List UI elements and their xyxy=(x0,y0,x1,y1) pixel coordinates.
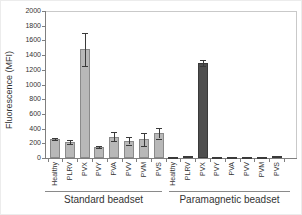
x-label-PLRV: PLRV xyxy=(66,162,74,180)
x-tick xyxy=(48,159,49,162)
y-tick-label-1600: 1600 xyxy=(9,36,41,44)
x-label-PVX: PVX xyxy=(199,162,207,176)
error-bar-line-PVM xyxy=(144,133,145,146)
x-label-PVV: PVV xyxy=(243,162,251,176)
y-tick xyxy=(42,129,45,130)
x-tick xyxy=(122,159,123,162)
y-tick xyxy=(42,85,45,86)
y-tick-label-2000: 2000 xyxy=(9,7,41,15)
error-bar-cap-top-PVX xyxy=(200,60,206,61)
x-tick xyxy=(136,159,137,162)
x-label-PVS: PVS xyxy=(273,162,281,176)
y-tick xyxy=(42,40,45,41)
y-tick xyxy=(42,70,45,71)
error-bar-cap-bottom-Healthy xyxy=(52,140,58,141)
x-label-PVA: PVA xyxy=(228,162,236,176)
x-tick xyxy=(62,159,63,162)
error-bar-cap-bottom-PVX xyxy=(82,66,88,67)
error-bar-cap-bottom-PVA xyxy=(111,141,117,142)
x-label-PVY: PVY xyxy=(95,162,103,176)
x-tick xyxy=(225,159,226,162)
plot-border-top xyxy=(45,11,297,12)
plot-border-right xyxy=(296,11,297,158)
error-bar-line-PVX xyxy=(85,33,86,66)
error-bar-cap-top-PVA xyxy=(111,132,117,133)
y-tick xyxy=(42,26,45,27)
x-tick xyxy=(210,159,211,162)
x-label-Healthy: Healthy xyxy=(51,162,59,186)
bar-paramagnetic-Healthy xyxy=(168,157,178,159)
bar-standard-Healthy xyxy=(50,139,60,158)
y-tick-label-1200: 1200 xyxy=(9,66,41,74)
x-tick xyxy=(151,159,152,162)
group-label-paramagnetic: Paramagnetic beadset xyxy=(167,194,292,205)
y-tick-label-0: 0 xyxy=(9,154,41,162)
y-tick xyxy=(42,143,45,144)
error-bar-cap-top-Healthy xyxy=(52,138,58,139)
y-tick-label-200: 200 xyxy=(9,139,41,147)
y-tick xyxy=(42,158,45,159)
x-tick xyxy=(284,159,285,162)
x-label-PVX: PVX xyxy=(81,162,89,176)
bar-paramagnetic-PVY xyxy=(212,157,222,159)
x-label-Healthy: Healthy xyxy=(169,162,177,186)
error-bar-cap-bottom-PVV xyxy=(126,145,132,146)
error-bar-cap-bottom-PLRV xyxy=(67,144,73,145)
bar-paramagnetic-PVX xyxy=(198,63,208,158)
error-bar-cap-top-PLRV xyxy=(67,140,73,141)
group-divider-standard xyxy=(45,191,162,192)
bar-paramagnetic-PVV xyxy=(242,157,252,159)
error-bar-cap-top-PVV xyxy=(126,137,132,138)
bar-paramagnetic-PVM xyxy=(257,157,267,159)
group-divider-paramagnetic xyxy=(169,191,290,192)
x-label-PVY: PVY xyxy=(213,162,221,176)
x-tick xyxy=(254,159,255,162)
x-label-PVM: PVM xyxy=(140,162,148,177)
x-tick xyxy=(195,159,196,162)
error-bar-cap-top-PVS xyxy=(156,128,162,129)
group-label-standard: Standard beadset xyxy=(41,194,166,205)
error-bar-cap-bottom-PVX xyxy=(200,66,206,67)
y-tick xyxy=(42,99,45,100)
x-tick xyxy=(240,159,241,162)
error-bar-cap-top-PVM xyxy=(141,133,147,134)
error-bar-cap-top-PVX xyxy=(82,33,88,34)
y-tick-label-400: 400 xyxy=(9,125,41,133)
error-bar-cap-bottom-PVM xyxy=(141,146,147,147)
x-tick xyxy=(77,159,78,162)
error-bar-cap-top-PVY xyxy=(96,146,102,147)
y-tick xyxy=(42,11,45,12)
x-label-PVM: PVM xyxy=(258,162,266,177)
error-bar-cap-bottom-PVS xyxy=(156,139,162,140)
error-bar-cap-bottom-PVY xyxy=(96,148,102,149)
x-label-PLRV: PLRV xyxy=(184,162,192,180)
error-bar-line-PVV xyxy=(129,137,130,144)
bar-paramagnetic-PVA xyxy=(227,157,237,159)
y-tick-label-1000: 1000 xyxy=(9,81,41,89)
y-axis-line xyxy=(45,11,46,159)
x-tick xyxy=(166,159,167,162)
x-tick xyxy=(107,159,108,162)
bar-paramagnetic-PVS xyxy=(272,156,282,158)
y-tick-label-600: 600 xyxy=(9,110,41,118)
x-tick xyxy=(269,159,270,162)
y-tick-label-800: 800 xyxy=(9,95,41,103)
y-tick xyxy=(42,55,45,56)
bar-paramagnetic-PLRV xyxy=(183,156,193,158)
y-tick-label-1800: 1800 xyxy=(9,22,41,30)
y-tick-label-1400: 1400 xyxy=(9,51,41,59)
x-label-PVS: PVS xyxy=(155,162,163,176)
x-label-PVV: PVV xyxy=(125,162,133,176)
error-bar-line-PVS xyxy=(159,128,160,138)
x-tick xyxy=(92,159,93,162)
y-tick xyxy=(42,114,45,115)
bar-chart-figure: Fluorescence (MFI) 020040060080010001200… xyxy=(0,0,302,215)
x-tick xyxy=(180,159,181,162)
x-label-PVA: PVA xyxy=(110,162,118,176)
